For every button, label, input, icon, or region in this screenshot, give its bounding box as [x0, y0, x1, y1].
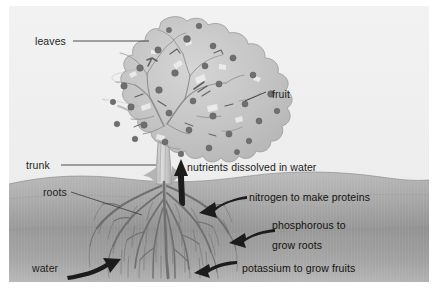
- label-phosphorous-line2: grow roots: [272, 239, 322, 252]
- label-leaves: leaves: [35, 35, 66, 48]
- label-trunk: trunk: [26, 159, 50, 172]
- diagram-canvas: [9, 6, 429, 282]
- label-potassium: potassium to grow fruits: [242, 262, 355, 275]
- label-nutrients-dissolved: nutrients dissolved in water: [187, 161, 316, 174]
- label-roots: roots: [43, 186, 67, 199]
- label-phosphorous-line1: phosphorous to: [272, 219, 346, 232]
- label-water: water: [32, 262, 58, 275]
- label-fruit: fruit: [272, 88, 290, 101]
- diagram-figure: leaves fruit trunk roots water nutrients…: [0, 0, 439, 295]
- diagram-panel: leaves fruit trunk roots water nutrients…: [9, 6, 429, 282]
- label-nitrogen: nitrogen to make proteins: [249, 191, 370, 204]
